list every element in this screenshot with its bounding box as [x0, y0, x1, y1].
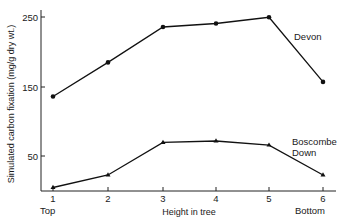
boscombe-label-line2: Down: [292, 147, 316, 158]
devon-label: Devon: [294, 31, 321, 42]
x-axis-title: Height in tree: [162, 207, 216, 217]
series-boscombe-down: Boscombe Down: [51, 136, 337, 189]
x-ticks: 1 2 3 4 5 6: [50, 187, 325, 204]
devon-point-1: [51, 94, 56, 99]
x-tick-3: 3: [160, 193, 165, 204]
series-devon: Devon: [51, 15, 326, 99]
devon-point-4: [214, 21, 219, 26]
devon-point-5: [267, 15, 272, 20]
devon-point-2: [106, 60, 111, 65]
y-tick-150: 150: [22, 82, 38, 93]
boscombe-label-line1: Boscombe: [292, 136, 337, 147]
x-tick-5: 5: [266, 193, 271, 204]
line-chart: Simulated carbon fixation (mg/g dry wt.)…: [0, 0, 342, 224]
x-label-top: Top: [40, 205, 55, 216]
y-axis-title: Simulated carbon fixation (mg/g dry wt.): [6, 25, 16, 184]
x-tick-4: 4: [213, 193, 218, 204]
x-tick-2: 2: [105, 193, 110, 204]
x-label-bottom: Bottom: [295, 205, 325, 216]
devon-point-6: [321, 80, 326, 85]
x-tick-1: 1: [50, 193, 55, 204]
x-tick-6: 6: [320, 193, 325, 204]
y-tick-250: 250: [22, 12, 38, 23]
devon-point-3: [161, 25, 166, 30]
y-tick-50: 50: [27, 151, 38, 162]
y-ticks: 250 150 50: [22, 12, 45, 162]
